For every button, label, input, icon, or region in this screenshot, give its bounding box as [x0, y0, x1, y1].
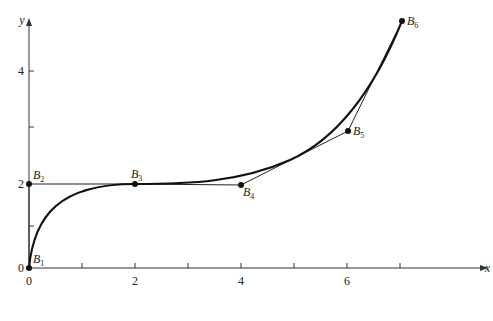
- point-b3: [132, 181, 138, 187]
- point-b6: [399, 18, 405, 24]
- x-ticks: [82, 263, 400, 268]
- control-points: [26, 18, 405, 271]
- label-b6: B6: [407, 14, 418, 30]
- y-axis-arrow-icon: [26, 18, 32, 26]
- label-b1: B1: [33, 252, 44, 268]
- y-axis-label: y: [18, 13, 25, 27]
- figure: 0 2 4 6 0 2 4 x y B1 B2 B3 B4 B5 B6: [0, 0, 493, 321]
- spline-curve: [29, 21, 402, 268]
- control-polygon: [29, 21, 402, 268]
- y-tick-label-0: 0: [18, 261, 24, 275]
- point-b2: [26, 181, 32, 187]
- y-tick-label-2: 2: [18, 177, 24, 191]
- label-b5: B5: [353, 124, 364, 140]
- label-b2: B2: [33, 168, 44, 184]
- y-tick-label-4: 4: [18, 64, 24, 78]
- x-tick-label-6: 6: [344, 274, 350, 288]
- label-b4: B4: [243, 185, 254, 201]
- x-axis-label: x: [484, 261, 491, 275]
- point-b5: [345, 128, 351, 134]
- y-ticks: [29, 71, 34, 226]
- x-tick-label-0: 0: [26, 274, 32, 288]
- x-tick-label-2: 2: [132, 274, 138, 288]
- label-b3: B3: [131, 167, 142, 183]
- x-tick-label-4: 4: [238, 274, 244, 288]
- point-b1: [26, 265, 32, 271]
